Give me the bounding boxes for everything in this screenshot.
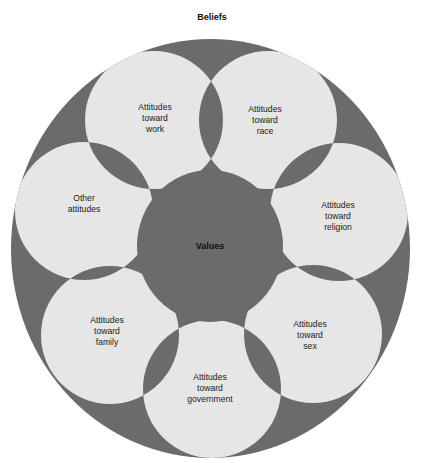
attitude-label-religion: Attitudestowardreligion [321, 200, 354, 232]
diagram-title: Beliefs [197, 12, 227, 22]
beliefs-values-diagram: Beliefs Values AttitudestowardworkAttitu… [0, 0, 426, 463]
values-label: Values [196, 241, 225, 251]
